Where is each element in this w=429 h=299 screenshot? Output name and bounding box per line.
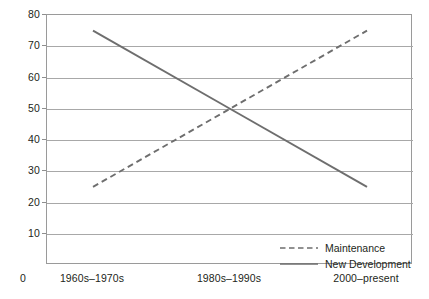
x-tick-label: 1960s–1970s (60, 273, 124, 284)
legend-label-new-development: New Development (319, 259, 411, 270)
legend-label-maintenance: Maintenance (319, 243, 385, 254)
y-tick-label: 60 (6, 72, 40, 83)
y-axis: 1020304050607080 (0, 14, 40, 264)
gridlines-group (47, 47, 413, 235)
line-chart: 1020304050607080 Maintenance (0, 0, 429, 299)
y-tick-label: 10 (6, 228, 40, 239)
y-tick-label: 50 (6, 103, 40, 114)
plot-area: Maintenance New Development (46, 14, 412, 264)
x-tick-label: 2000–present (333, 273, 398, 284)
y-tick-label: 20 (6, 197, 40, 208)
dashed-line-icon (279, 243, 319, 253)
y-tick-label: 40 (6, 134, 40, 145)
solid-line-icon (279, 259, 319, 269)
y-tick-label: 70 (6, 40, 40, 51)
series-group (93, 31, 367, 187)
series-line-new-development (93, 31, 367, 187)
chart-legend: Maintenance New Development (279, 240, 407, 272)
x-axis: 1960s–1970s1980s–1990s2000–present (0, 273, 429, 289)
legend-item-maintenance: Maintenance (279, 240, 407, 256)
x-tick-label: 1980s–1990s (197, 273, 261, 284)
legend-item-new-development: New Development (279, 256, 407, 272)
y-tick-label: 30 (6, 165, 40, 176)
series-layer (47, 15, 413, 265)
y-tick-label: 80 (6, 9, 40, 20)
